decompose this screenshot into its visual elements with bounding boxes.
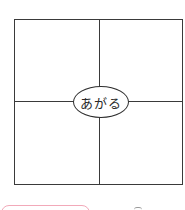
pink-answer-box — [1, 205, 90, 210]
center-word-oval: あがる — [73, 86, 129, 118]
partial-icon — [134, 207, 142, 210]
four-square-grid: あがる — [14, 19, 183, 185]
center-word: あがる — [80, 93, 122, 112]
